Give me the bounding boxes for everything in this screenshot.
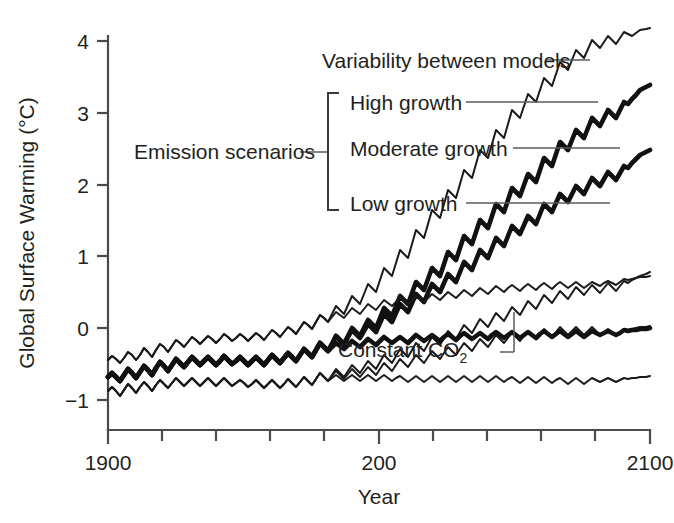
y-tick-label-2: 2: [77, 174, 89, 197]
x-tick-label-2000: 200: [361, 451, 396, 474]
chart-background: [0, 0, 674, 523]
annotation-high-growth: High growth: [350, 91, 462, 114]
y-tick-label-0: 0: [77, 317, 89, 340]
y-tick-label-minus1: −1: [65, 389, 89, 412]
annotation-constant-co2-subscript: 2: [459, 350, 467, 366]
annotation-variability-between-models: Variability between models: [322, 49, 570, 72]
y-axis-title: Global Surface Warming (°C): [15, 97, 38, 368]
annotation-emission-scenarios: Emission scenarios: [134, 140, 315, 163]
annotation-moderate-growth: Moderate growth: [350, 137, 508, 160]
chart-figure: 4 3 2 1 0 −1 1900 200 2100 Year Global S…: [0, 0, 674, 523]
y-tick-label-3: 3: [77, 102, 89, 125]
y-tick-label-1: 1: [77, 245, 89, 268]
y-tick-label-4: 4: [77, 30, 89, 53]
x-tick-label-2100: 2100: [627, 451, 674, 474]
x-axis-title: Year: [358, 485, 400, 508]
x-tick-label-1900: 1900: [85, 451, 132, 474]
annotation-constant-co2-main: Constant CO: [338, 338, 459, 361]
global-surface-warming-chart: 4 3 2 1 0 −1 1900 200 2100 Year Global S…: [0, 0, 674, 523]
annotation-low-growth: Low growth: [350, 192, 457, 215]
